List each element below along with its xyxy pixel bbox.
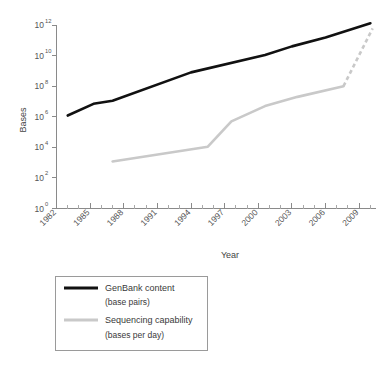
x-axis-title: Year [221,250,239,260]
x-tick-label-1997: 1997 [206,207,227,228]
y-tick-label-10e4: 104 [35,140,49,153]
legend-label-sequencing: Sequencing capability [105,315,193,325]
x-tick-label-1991: 1991 [138,207,159,228]
y-tick-base: 10 [35,204,45,214]
y-tick-exponent: 6 [45,109,48,115]
y-tick-label-10e12: 1012 [35,18,52,31]
y-tick-base: 10 [35,81,45,91]
y-tick-base: 10 [35,173,45,183]
x-tick-label-2009: 2009 [340,207,361,228]
y-axis-ticks [52,25,57,209]
y-tick-base: 10 [35,20,45,30]
series-sequencing-capability [113,86,344,161]
y-tick-label-10e10: 1010 [35,48,52,61]
y-tick-exponent: 0 [45,201,48,207]
y-tick-label-10e6: 106 [35,109,49,122]
x-tick-label-2006: 2006 [307,207,328,228]
y-axis-title: Bases [18,107,28,133]
legend-label-genbank: GenBank content [105,283,175,293]
y-tick-base: 10 [35,142,45,152]
series-sequencing-capability-projected [343,28,372,86]
chart-figure: 10010210410610810101012 Bases 1982198519… [0,0,388,365]
y-tick-exponent: 8 [45,79,48,85]
data-series-group [68,23,373,161]
y-tick-base: 10 [35,112,45,122]
y-tick-exponent: 12 [45,18,51,24]
legend-sublabel-sequencing: (bases per day) [105,330,164,340]
x-tick-label-1988: 1988 [105,207,126,228]
x-axis-tick-labels: 1982198519881991199419972000200320062009 [37,207,360,228]
y-axis: 10010210410610810101012 Bases [18,18,57,214]
y-tick-base: 10 [35,51,45,61]
series-genbank-content [68,23,371,115]
y-tick-exponent: 4 [45,140,49,146]
y-tick-label-10e2: 102 [35,170,49,183]
legend-sublabel-genbank: (base pairs) [105,297,150,307]
x-tick-label-1994: 1994 [172,207,193,228]
x-tick-label-2000: 2000 [239,207,260,228]
x-axis: 1982198519881991199419972000200320062009… [37,203,376,260]
y-axis-tick-labels: 10010210410610810101012 [35,18,52,214]
x-tick-label-1985: 1985 [71,207,92,228]
chart-legend: GenBank content (base pairs) Sequencing … [56,277,208,351]
y-tick-label-10e8: 108 [35,79,49,92]
x-tick-label-2003: 2003 [273,207,294,228]
y-tick-exponent: 2 [45,170,48,176]
x-axis-major-ticks [57,203,360,209]
y-tick-exponent: 10 [45,48,51,54]
log-line-chart: 10010210410610810101012 Bases 1982198519… [0,0,388,365]
